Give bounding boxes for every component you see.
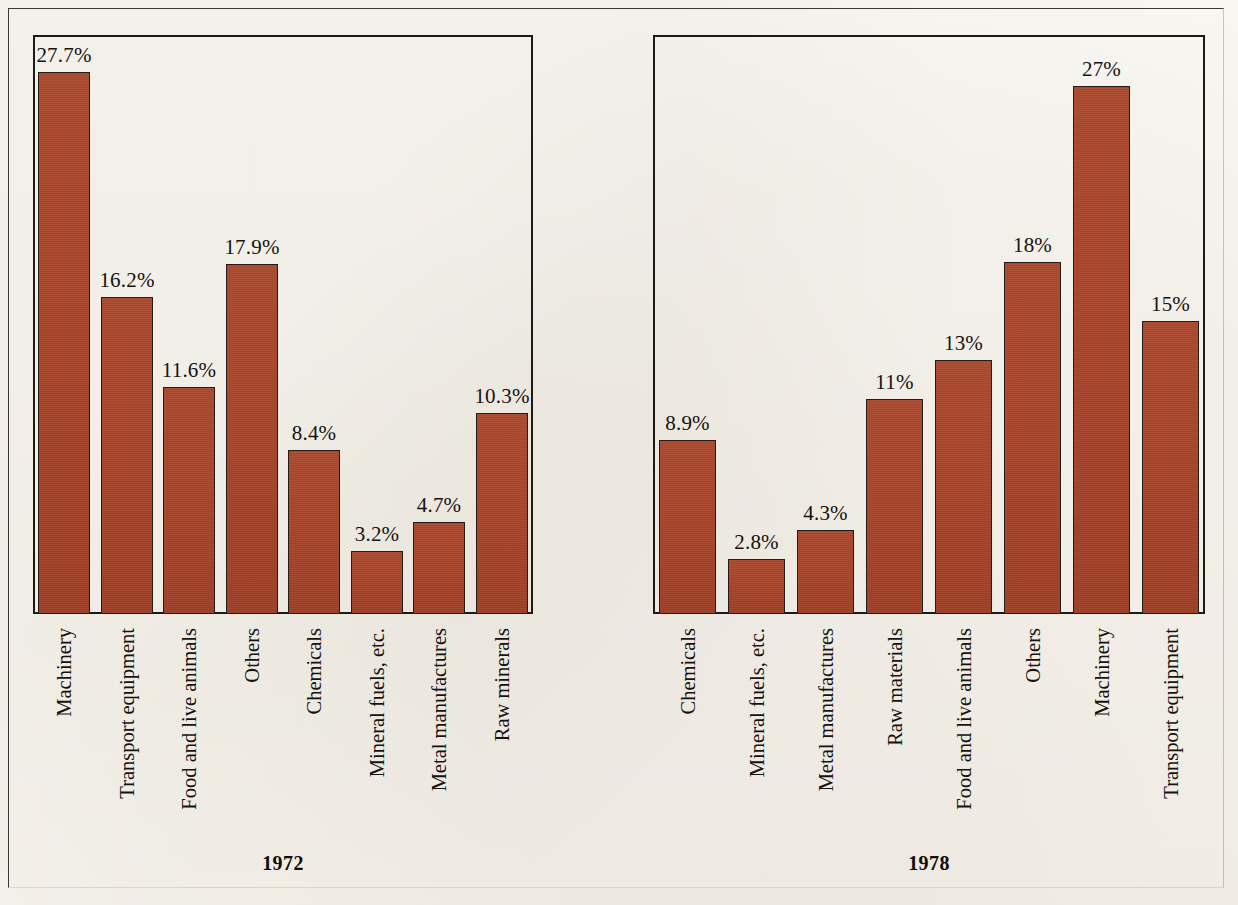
bar — [476, 413, 528, 614]
bar-group: 3.2%Mineral fuels, etc. — [351, 35, 403, 614]
category-label: Metal manufactures — [815, 628, 836, 791]
category-label: Mineral fuels, etc. — [746, 628, 767, 777]
bar — [226, 264, 278, 614]
year-caption-1978: 1978 — [653, 852, 1205, 875]
bar — [935, 360, 992, 614]
bar-value-label: 18% — [1013, 233, 1052, 258]
bar-value-label: 3.2% — [355, 522, 400, 547]
category-label: Raw materials — [884, 628, 905, 746]
bar — [288, 450, 340, 614]
bar-group: 13%Food and live animals — [935, 35, 992, 614]
bar-value-label: 11% — [875, 370, 913, 395]
bar-group: 4.7%Metal manufactures — [413, 35, 465, 614]
bar-value-label: 4.7% — [417, 493, 462, 518]
bar — [351, 551, 403, 614]
bar-value-label: 27.7% — [36, 43, 91, 68]
bar — [1004, 262, 1061, 614]
bar-value-label: 4.3% — [803, 501, 848, 526]
bar-value-label: 17.9% — [224, 235, 279, 260]
bar — [1073, 86, 1130, 614]
category-label: Chemicals — [677, 628, 698, 715]
bar-value-label: 16.2% — [99, 268, 154, 293]
bar — [866, 399, 923, 614]
bar — [728, 559, 785, 614]
bar-group: 8.4%Chemicals — [288, 35, 340, 614]
bar — [413, 522, 465, 614]
category-label: Machinery — [54, 628, 75, 717]
bar — [1142, 321, 1199, 614]
bar-group: 16.2%Transport equipment — [101, 35, 153, 614]
category-label: Raw minerals — [492, 628, 513, 741]
bar-group: 11%Raw materials — [866, 35, 923, 614]
bar-group: 2.8%Mineral fuels, etc. — [728, 35, 785, 614]
bars-layer: 8.9%Chemicals2.8%Mineral fuels, etc.4.3%… — [653, 35, 1205, 614]
category-label: Others — [1022, 628, 1043, 683]
bar-group: 8.9%Chemicals — [659, 35, 716, 614]
bar-value-label: 13% — [944, 331, 983, 356]
bar — [659, 440, 716, 614]
category-label: Food and live animals — [953, 628, 974, 810]
dual-bar-chart-figure: 27.7%Machinery16.2%Transport equipment11… — [0, 0, 1238, 905]
bar — [101, 297, 153, 614]
bar-group: 17.9%Others — [226, 35, 278, 614]
bar-value-label: 15% — [1151, 292, 1190, 317]
bar-value-label: 10.3% — [474, 384, 529, 409]
bar-value-label: 11.6% — [162, 358, 216, 383]
bar-value-label: 8.9% — [665, 411, 710, 436]
bar — [163, 387, 215, 614]
bar-group: 10.3%Raw minerals — [476, 35, 528, 614]
bar-group: 4.3%Metal manufactures — [797, 35, 854, 614]
bar-value-label: 8.4% — [292, 421, 337, 446]
category-label: Transport equipment — [117, 628, 138, 799]
bar-group: 18%Others — [1004, 35, 1061, 614]
bar-value-label: 27% — [1082, 57, 1121, 82]
category-label: Transport equipment — [1160, 628, 1181, 799]
bar-group: 27.7%Machinery — [38, 35, 90, 614]
category-label: Machinery — [1091, 628, 1112, 717]
bar-group: 15%Transport equipment — [1142, 35, 1199, 614]
bar-value-label: 2.8% — [734, 530, 779, 555]
bar — [797, 530, 854, 614]
category-label: Mineral fuels, etc. — [367, 628, 388, 777]
category-label: Chemicals — [304, 628, 325, 715]
category-label: Food and live animals — [179, 628, 200, 810]
bar-group: 11.6%Food and live animals — [163, 35, 215, 614]
bar-group: 27%Machinery — [1073, 35, 1130, 614]
category-label: Metal manufactures — [429, 628, 450, 791]
chart-panel-1978: 8.9%Chemicals2.8%Mineral fuels, etc.4.3%… — [653, 35, 1205, 614]
category-label: Others — [242, 628, 263, 683]
chart-panel-1972: 27.7%Machinery16.2%Transport equipment11… — [33, 35, 533, 614]
bars-layer: 27.7%Machinery16.2%Transport equipment11… — [33, 35, 533, 614]
year-caption-1972: 1972 — [33, 852, 533, 875]
bar — [38, 72, 90, 614]
